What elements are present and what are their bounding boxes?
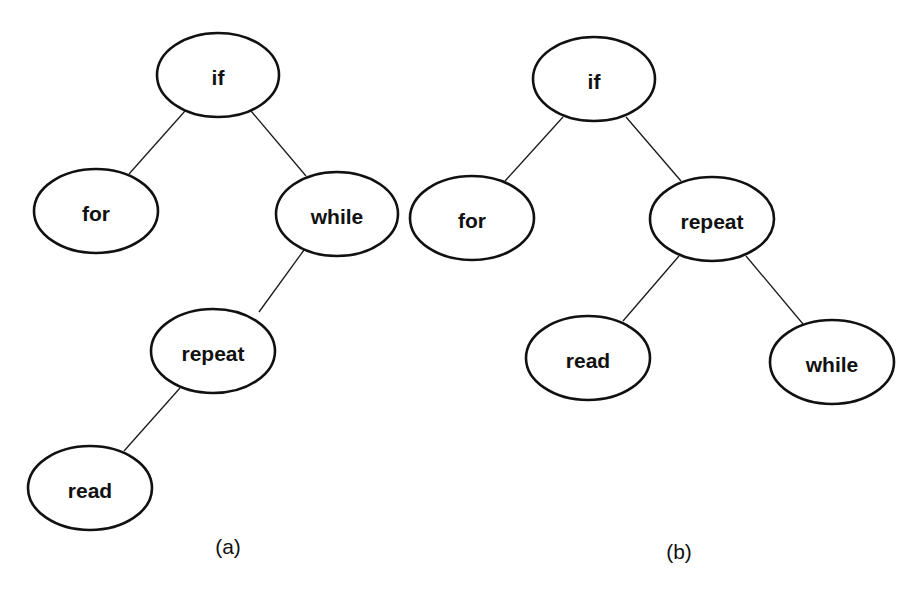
tree-a-node-for: for (34, 169, 158, 253)
node-label: while (310, 205, 364, 228)
tree-b-node-while: while (770, 320, 894, 404)
tree-b-node-if: if (533, 37, 655, 121)
tree-b-nodes: ifforrepeatreadwhile (410, 37, 894, 404)
tree-diagram-canvas: ifforwhilerepeatread (a) ifforrepeatread… (0, 0, 917, 592)
tree-a-node-repeat: repeat (151, 309, 275, 393)
tree-a-node-while: while (276, 172, 398, 256)
node-label: while (805, 353, 859, 376)
tree-b-node-repeat: repeat (650, 177, 774, 261)
tree-b-caption: (b) (666, 540, 692, 563)
edge-repeat-to-read (124, 388, 180, 451)
edge-if-to-for (129, 111, 185, 174)
node-label: for (82, 202, 110, 225)
tree-b: ifforrepeatreadwhile (b) (410, 37, 894, 563)
node-label: read (566, 349, 610, 372)
edge-if-to-for (505, 117, 563, 181)
node-label: repeat (181, 342, 244, 365)
tree-a-edges (124, 111, 306, 451)
tree-a-node-if: if (157, 33, 279, 117)
node-label: if (212, 66, 226, 89)
edge-while-to-repeat (259, 250, 304, 312)
edge-if-to-repeat (626, 117, 681, 181)
edge-repeat-to-read (623, 256, 679, 321)
node-label: repeat (680, 210, 743, 233)
node-label: for (458, 209, 486, 232)
tree-b-node-for: for (410, 176, 534, 260)
tree-a-caption: (a) (215, 535, 241, 558)
edge-if-to-while (251, 111, 306, 176)
tree-a: ifforwhilerepeatread (a) (28, 33, 398, 558)
node-label: if (588, 70, 602, 93)
node-label: read (68, 479, 112, 502)
tree-a-nodes: ifforwhilerepeatread (28, 33, 398, 530)
tree-a-node-read: read (28, 446, 152, 530)
tree-b-node-read: read (526, 316, 650, 400)
edge-repeat-to-while (746, 256, 803, 324)
